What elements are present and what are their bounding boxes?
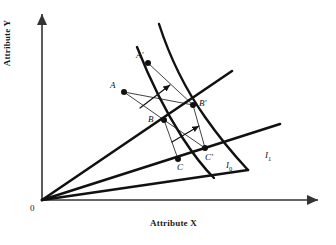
point-label-C: C [177, 162, 183, 172]
data-point-Ap [145, 60, 151, 66]
ray-lower [42, 170, 248, 200]
curve-label-subscript: 0 [229, 165, 232, 172]
y-axis-label: Attribute Y [2, 8, 12, 78]
curve-label-I1: I1 [265, 150, 271, 162]
ray-middle [42, 124, 280, 200]
point-label-A: A [110, 80, 116, 90]
point-label-Bp: B' [199, 98, 206, 108]
data-point-Bp [190, 102, 196, 108]
origin-label: 0 [30, 203, 35, 213]
point-label-B: B [148, 114, 154, 124]
ray-upper [42, 71, 232, 200]
data-point-Cp [202, 145, 208, 151]
indifference-curve-figure: Attribute Y Attribute X 0 AA'BB'CC' I0I1 [0, 0, 336, 245]
curve-label-I0: I0 [226, 160, 232, 172]
point-label-Cp: C' [205, 152, 213, 162]
connectors-group [124, 63, 205, 159]
figure-canvas [0, 0, 336, 245]
curve-label-subscript: 1 [268, 155, 271, 162]
indifference-curves-group [137, 24, 248, 178]
data-point-B [161, 117, 167, 123]
rays-group [42, 71, 280, 200]
data-point-A [121, 89, 127, 95]
point-label-Ap: A' [136, 50, 143, 60]
x-axis-label: Attribute X [150, 218, 197, 228]
Ap-to-Bp [148, 63, 193, 105]
